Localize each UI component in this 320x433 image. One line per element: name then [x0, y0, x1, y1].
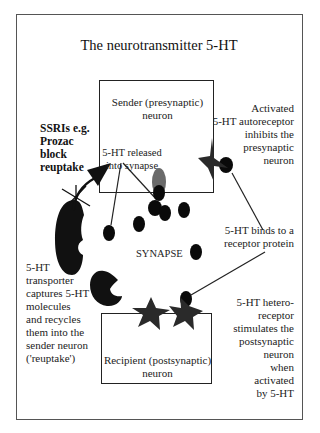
- heteroreceptor-icon: [132, 297, 170, 330]
- heteroreceptor-line: postsynaptic: [214, 335, 294, 348]
- molecule-icon: [153, 185, 165, 201]
- transporter-line: captures 5-HT: [26, 287, 89, 300]
- heteroreceptor-line: neuron: [214, 348, 294, 361]
- ssri-line: block: [40, 148, 90, 161]
- heteroreceptor-label: 5-HT hetero- receptor stimulates the pos…: [214, 296, 294, 400]
- molecule-icon: [178, 202, 190, 218]
- transporter-pacman-icon: [90, 271, 122, 306]
- transporter-line: them into the: [26, 326, 89, 339]
- heteroreceptor-line: receptor: [214, 309, 294, 322]
- released-line: 5-HT released: [100, 146, 164, 159]
- heteroreceptor-line: by 5-HT: [214, 387, 294, 400]
- released-label: 5-HT released into synapse: [100, 146, 164, 172]
- ssri-line: SSRIs e.g.: [40, 122, 90, 135]
- released-line: into synapse: [100, 159, 164, 172]
- molecule-icon: [103, 225, 115, 241]
- transporter-line: 5-HT: [26, 261, 89, 274]
- heteroreceptor-line: 5-HT hetero-: [214, 296, 294, 309]
- autoreceptor-line: presynaptic: [200, 141, 294, 154]
- autoreceptor-line: Activated: [200, 102, 294, 115]
- block-x-icon: [62, 185, 90, 210]
- ssri-label: SSRIs e.g. Prozac block reuptake: [40, 122, 90, 174]
- transporter-line: ('reuptake'): [26, 352, 89, 365]
- transporter-line: and recycles: [26, 313, 89, 326]
- autoreceptor-label: Activated 5-HT autoreceptor inhibits the…: [200, 102, 294, 167]
- binds-label: 5-HT binds to a receptor protein: [200, 224, 294, 250]
- molecule-icon: [133, 216, 145, 232]
- autoreceptor-line: neuron: [200, 154, 294, 167]
- autoreceptor-line: 5-HT autoreceptor: [200, 115, 294, 128]
- binds-line: receptor protein: [200, 237, 294, 250]
- heteroreceptor-line: stimulates the: [214, 322, 294, 335]
- molecule-icon: [159, 205, 171, 221]
- transporter-line: transporter: [26, 274, 89, 287]
- synapse-label: SYNAPSE: [136, 247, 183, 260]
- transporter-label: 5-HT transporter captures 5-HT molecules…: [26, 261, 89, 365]
- binds-line: 5-HT binds to a: [200, 224, 294, 237]
- autoreceptor-line: inhibits the: [200, 128, 294, 141]
- transporter-line: molecules: [26, 300, 89, 313]
- ssri-line: reuptake: [40, 161, 90, 174]
- heteroreceptor-line: when: [214, 361, 294, 374]
- transporter-line: sender neuron: [26, 339, 89, 352]
- heteroreceptor-line: activated: [214, 374, 294, 387]
- ssri-line: Prozac: [40, 135, 90, 148]
